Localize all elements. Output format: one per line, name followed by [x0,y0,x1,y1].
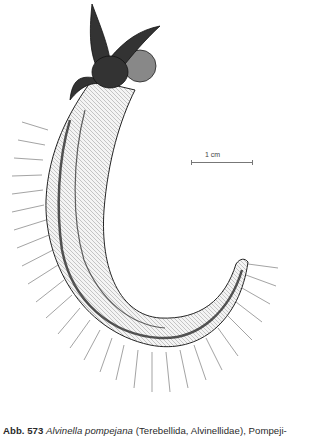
figure-caption: Abb. 573 Alvinella pompejana (Terebellid… [3,425,315,436]
worm-illustration [0,0,315,410]
scale-bar [191,162,253,163]
figure-number: Abb. 573 [3,425,43,436]
scale-bar-label: 1 cm [205,151,220,158]
species-name: Alvinella pompejana [46,425,133,436]
caption-text: (Terebellida, Alvinellidae), Pompeji- [136,425,287,436]
